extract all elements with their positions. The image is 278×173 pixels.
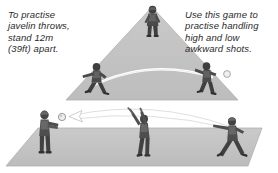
handling-ball-highlight	[60, 115, 63, 118]
caption-left-text: To practise javelin throws, stand 12m (3…	[8, 9, 94, 54]
trajectory-arrowhead-icon	[69, 111, 83, 123]
illustration-canvas: To practise javelin throws, stand 12m (3…	[0, 0, 278, 173]
handling-ball	[58, 113, 65, 120]
caption-right-text: Use this game to practise handling high …	[185, 9, 275, 54]
scene-handling-drill	[6, 107, 262, 166]
javelin-ball	[224, 71, 231, 78]
handling-trajectory-arc-low	[74, 116, 228, 128]
